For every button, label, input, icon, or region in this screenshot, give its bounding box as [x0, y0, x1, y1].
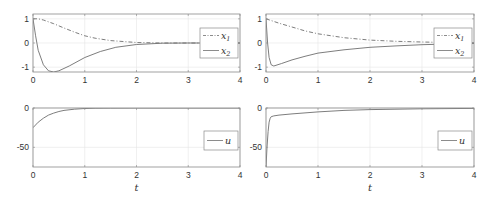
- x-tick-label: 3: [420, 75, 425, 85]
- legend: x1x2: [200, 28, 238, 58]
- panel-top-right: 0123410-1x1x2: [254, 14, 476, 85]
- legend: u: [438, 131, 472, 150]
- x-tick-label: 1: [82, 75, 87, 85]
- x-tick-label: 1: [316, 170, 321, 180]
- x-tick-label: 4: [238, 170, 243, 180]
- x-tick-label: 2: [368, 75, 373, 85]
- x-tick-label: 3: [186, 75, 191, 85]
- y-tick-label: -1: [21, 62, 29, 72]
- y-tick-label: -50: [17, 142, 30, 152]
- legend: x1x2: [434, 28, 472, 58]
- figure: 0123410-1x1x20123410-1x1x2012340-50tu012…: [0, 0, 491, 201]
- y-tick-label: 0: [257, 103, 262, 113]
- y-tick-label: 0: [257, 38, 262, 48]
- x-tick-label: 2: [134, 75, 139, 85]
- x-tick-label: 0: [31, 170, 36, 180]
- x-axis-label: t: [134, 182, 139, 193]
- x-tick-label: 4: [472, 170, 477, 180]
- x-tick-label: 1: [316, 75, 321, 85]
- y-tick-label: 0: [24, 103, 29, 113]
- panel-top-left: 0123410-1x1x2: [21, 14, 242, 85]
- x-tick-label: 0: [264, 170, 269, 180]
- x-tick-label: 1: [82, 170, 87, 180]
- legend: u: [204, 131, 238, 150]
- x-tick-label: 0: [264, 75, 269, 85]
- x-axis-label: t: [368, 182, 373, 193]
- x-tick-label: 2: [368, 170, 373, 180]
- x-tick-label: 2: [134, 170, 139, 180]
- panel-bottom-right: 012340-50tu: [250, 103, 477, 193]
- x-tick-label: 3: [420, 170, 425, 180]
- y-tick-label: 1: [24, 14, 29, 24]
- x-tick-label: 3: [186, 170, 191, 180]
- y-tick-label: -1: [254, 62, 262, 72]
- x-tick-label: 4: [472, 75, 477, 85]
- y-tick-label: 1: [257, 14, 262, 24]
- y-tick-label: -50: [250, 142, 263, 152]
- y-tick-label: 0: [24, 38, 29, 48]
- x-tick-label: 4: [238, 75, 243, 85]
- legend-label: u: [459, 135, 465, 146]
- panel-bottom-left: 012340-50tu: [17, 103, 243, 193]
- legend-label: u: [225, 135, 231, 146]
- x-tick-label: 0: [31, 75, 36, 85]
